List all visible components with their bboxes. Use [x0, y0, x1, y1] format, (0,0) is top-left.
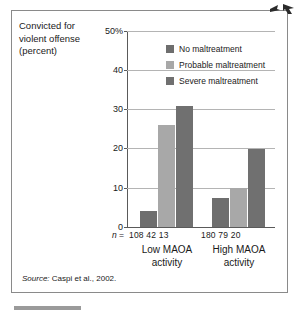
tick-0 — [124, 227, 127, 228]
tick-40 — [124, 70, 127, 71]
gridline-30 — [127, 109, 275, 110]
legend-label-severe-maltreatment: Severe maltreatment — [179, 76, 258, 86]
sample-size-row: n = 108 42 13 180 79 20 — [112, 230, 282, 242]
sample-size-prefix: n = — [112, 230, 124, 240]
y-tick-label-50: 50% — [97, 27, 123, 36]
source-text: Caspi et al., 2002. — [50, 274, 117, 283]
legend-swatch-no-maltreatment — [166, 45, 174, 53]
bar-high-severe-maltreatment — [248, 149, 265, 227]
group-label-high-maoa: High MAOA activity — [202, 244, 276, 269]
y-tick-label-10: 10 — [97, 184, 123, 193]
tick-30 — [124, 109, 127, 110]
group-label-high-maoa-line1: High MAOA — [202, 244, 276, 257]
bar-low-no-maltreatment — [140, 211, 157, 227]
bar-high-no-maltreatment — [212, 198, 229, 227]
page-title: Convicted for violent offense (percent) — [19, 20, 105, 58]
sample-size-low-maoa: 108 42 13 — [129, 230, 169, 240]
sample-size-high-maoa: 180 79 20 — [201, 230, 241, 240]
y-axis-line — [127, 31, 128, 228]
legend-item-severe-maltreatment: Severe maltreatment — [166, 73, 278, 88]
legend-label-no-maltreatment: No maltreatment — [179, 44, 242, 54]
tick-50 — [124, 31, 127, 32]
tick-20 — [124, 148, 127, 149]
gridline-50 — [127, 31, 275, 32]
bar-high-probable-maltreatment — [230, 188, 247, 227]
tick-10 — [124, 188, 127, 189]
y-tick-label-40: 40 — [97, 66, 123, 75]
legend-label-probable-maltreatment: Probable maltreatment — [179, 60, 265, 70]
gridline-0 — [127, 227, 275, 228]
y-tick-label-30: 30 — [97, 105, 123, 114]
group-label-high-maoa-line2: activity — [202, 257, 276, 270]
legend-item-probable-maltreatment: Probable maltreatment — [166, 57, 278, 72]
bar-low-probable-maltreatment — [158, 125, 175, 227]
bar-low-severe-maltreatment — [176, 106, 193, 228]
legend-swatch-severe-maltreatment — [166, 77, 174, 85]
legend: No maltreatment Probable maltreatment Se… — [166, 41, 278, 89]
legend-swatch-probable-maltreatment — [166, 61, 174, 69]
group-label-low-maoa-line1: Low MAOA — [130, 244, 204, 257]
group-label-low-maoa-line2: activity — [130, 257, 204, 270]
cursor-arrow-icon — [268, 1, 298, 13]
legend-item-no-maltreatment: No maltreatment — [166, 41, 278, 56]
source-label: Source: — [22, 274, 50, 283]
source-note: Source: Caspi et al., 2002. — [22, 274, 116, 283]
y-tick-label-20: 20 — [97, 144, 123, 153]
group-label-low-maoa: Low MAOA activity — [130, 244, 204, 269]
sample-size-equals: = — [117, 230, 124, 240]
bottom-rule — [14, 306, 81, 310]
